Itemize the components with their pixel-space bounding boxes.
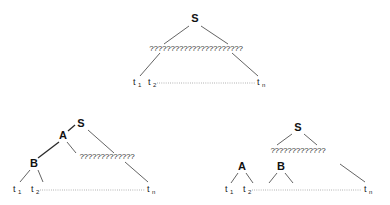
parse-tree-figure: S ?????????????????????? t 1 t 2 [0, 0, 390, 205]
top-terminal-t2: t 2 [148, 77, 157, 88]
br-terminal-t1-base: t [225, 184, 228, 194]
br-edge-a-t2 [246, 173, 253, 183]
br-edge-a-t1 [231, 173, 238, 183]
br-edge-right-descent [340, 164, 365, 182]
br-node-s-label: S [294, 121, 301, 133]
bl-terminal-t1-sub: 1 [18, 189, 22, 195]
top-terminal-tn-sub: n [262, 82, 265, 88]
top-terminal-t1: t 1 [133, 77, 142, 88]
bl-node-s-label: S [77, 117, 84, 129]
br-squiggle: ????????????? [270, 146, 326, 155]
top-terminal-t2-sub: 2 [153, 82, 157, 88]
bl-node-b-label: B [30, 157, 38, 169]
br-terminal-tn-sub: n [369, 189, 372, 195]
bl-terminal-tn: t n [147, 184, 155, 195]
bl-edge-a-b [38, 142, 59, 158]
top-edge-s-right [201, 26, 228, 44]
top-edge-left-descent [140, 53, 160, 76]
top-squiggle: ?????????????????????? [149, 44, 243, 53]
top-edge-s-left [164, 26, 189, 44]
br-node-a-label: A [238, 160, 246, 172]
tree-diagram-canvas: S ?????????????????????? t 1 t 2 [0, 0, 390, 205]
bottom-left-diagram: S A ????????????? B t 1 [13, 117, 155, 195]
bottom-right-diagram: S ????????????? A B t 1 [225, 121, 372, 195]
bl-node-a-label: A [59, 129, 67, 141]
bl-edge-s-a [68, 125, 75, 131]
bl-edge-s-right [88, 130, 114, 153]
br-terminal-tn: t n [364, 184, 372, 195]
top-edge-right-descent [232, 53, 258, 76]
bl-terminal-t2-base: t [31, 184, 34, 194]
br-terminal-t1: t 1 [225, 184, 234, 195]
top-terminal-tn: t n [257, 77, 265, 88]
bl-terminal-tn-base: t [147, 184, 150, 194]
br-terminal-tn-base: t [364, 184, 367, 194]
bl-edge-b-t2 [38, 170, 43, 182]
top-diagram: S ?????????????????????? t 1 t 2 [133, 12, 265, 88]
br-edge-s-right [304, 134, 317, 145]
top-terminal-tn-base: t [257, 77, 260, 87]
bl-edge-b-t1 [20, 170, 30, 182]
br-edge-b-right [285, 173, 293, 183]
bl-edge-right-descent [125, 162, 148, 182]
bl-terminal-t1: t 1 [13, 184, 22, 195]
bl-terminal-tn-sub: n [152, 189, 155, 195]
bl-terminal-t2: t 2 [31, 184, 40, 195]
top-terminal-t1-base: t [133, 77, 136, 87]
br-terminal-t2: t 2 [243, 184, 252, 195]
bl-terminal-t2-sub: 2 [36, 189, 40, 195]
br-edge-s-left [277, 134, 292, 145]
top-terminal-t2-base: t [148, 77, 151, 87]
br-edge-b-left [269, 173, 277, 183]
top-terminal-t1-sub: 1 [138, 82, 142, 88]
bl-terminal-t1-base: t [13, 184, 16, 194]
br-terminal-t1-sub: 1 [230, 189, 234, 195]
bl-squiggle: ????????????? [79, 152, 135, 161]
top-node-s-label: S [191, 12, 198, 24]
br-terminal-t2-base: t [243, 184, 246, 194]
br-node-b-label: B [277, 160, 285, 172]
bl-edge-a-squiggle [67, 142, 76, 153]
br-terminal-t2-sub: 2 [248, 189, 252, 195]
